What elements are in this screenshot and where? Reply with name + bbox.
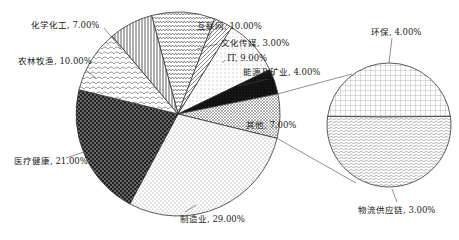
secondary-pie [327,63,451,187]
slice-huanbao [328,63,451,117]
slice-label: 化学化工, 7.00% [31,20,99,30]
slice-label: 互联网, 10.00% [197,21,262,31]
slice-label: 制造业, 29.00% [180,214,245,224]
pie-of-pie-chart: 互联网, 10.00%文化传媒, 3.00%IT, 9.00%能源及矿业, 4.… [0,0,459,240]
slice-label: 物流供应链, 3.00% [358,205,435,215]
slice-label: 医疗健康, 21.00% [14,156,88,166]
slice-label: 文化传媒, 3.00% [221,38,289,48]
chart-canvas: 互联网, 10.00%文化传媒, 3.00%IT, 9.00%能源及矿业, 4.… [0,0,459,240]
slice-label: 环保, 4.00% [371,27,421,37]
slice-label: 能源及矿业, 4.00% [243,67,320,77]
slice-label: 其他, 7.00% [246,120,296,130]
slice-label: IT, 9.00% [227,53,267,63]
slice-label: 农林牧渔, 10.00% [18,56,92,66]
slice-wuliu [327,116,451,187]
leader-line [389,38,392,63]
leader-line [392,189,397,202]
